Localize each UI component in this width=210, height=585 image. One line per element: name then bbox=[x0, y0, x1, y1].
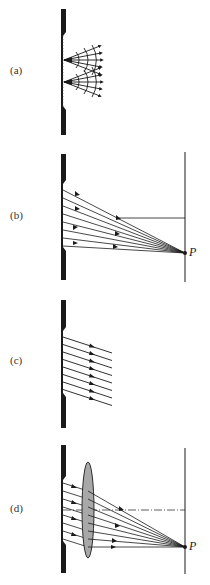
slit-barrier-d bbox=[61, 445, 66, 573]
convex-lens bbox=[82, 462, 94, 558]
slit-barrier-b bbox=[61, 154, 66, 280]
panel-c bbox=[61, 300, 112, 428]
point-p-d bbox=[183, 545, 187, 549]
panel-d bbox=[61, 445, 187, 574]
panel-b bbox=[61, 152, 187, 282]
arrowheads-c bbox=[89, 344, 95, 401]
parallel-rays-c bbox=[63, 337, 112, 406]
point-p-b bbox=[183, 251, 187, 255]
rays-b bbox=[63, 190, 185, 253]
focused-rays-d bbox=[88, 491, 185, 547]
diffraction-diagram bbox=[0, 0, 210, 585]
arrowheads-d bbox=[71, 484, 124, 549]
slit-barrier-a bbox=[61, 9, 66, 135]
slit-barrier-c bbox=[61, 300, 66, 428]
panel-a bbox=[61, 9, 102, 135]
